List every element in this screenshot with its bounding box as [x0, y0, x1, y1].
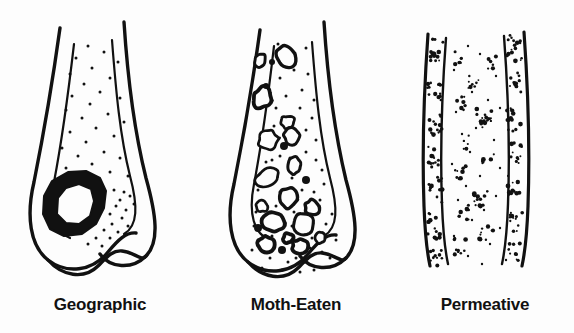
stipple-dot [313, 269, 316, 272]
stipple-dot [107, 113, 110, 116]
permeative-speck [510, 107, 512, 109]
permeative-speck [428, 127, 432, 131]
permeative-speck [507, 128, 510, 131]
permeative-speck [479, 175, 481, 177]
permeative-speck [458, 61, 461, 64]
permeative-speck [457, 214, 461, 218]
permeative-speck [468, 81, 470, 83]
permeative-speck [520, 211, 524, 215]
permeative-speck [510, 37, 512, 39]
permeative-speck [437, 131, 439, 133]
stipple-dot [279, 155, 282, 158]
stipple-dot [65, 109, 68, 112]
permeative-speck [434, 59, 437, 62]
permeative-speck [509, 76, 512, 79]
moth-eaten-solid-focus [269, 59, 275, 65]
permeative-speck [457, 249, 460, 252]
permeative-speck [484, 116, 488, 120]
permeative-speck [520, 146, 523, 149]
permeative-speck [489, 109, 493, 113]
stipple-dot [89, 103, 92, 106]
permeative-speck [463, 140, 465, 142]
permeative-speck [453, 235, 455, 237]
permeative-speck [518, 242, 522, 246]
permeative-speck [440, 99, 442, 101]
stipple-dot [307, 73, 310, 76]
permeative-speck [438, 60, 440, 62]
permeative-speck [518, 39, 521, 42]
stipple-dot [117, 231, 120, 234]
stipple-dot [95, 127, 98, 130]
permeative-speck [454, 50, 457, 53]
moth-eaten-lytic-lesion [278, 186, 300, 210]
permeative-speck [471, 91, 473, 93]
permeative-speck [481, 227, 483, 229]
bone-destruction-patterns-figure: Geographic Moth-Eaten [0, 0, 574, 333]
permeative-speck [428, 212, 431, 215]
permeative-speck [433, 256, 435, 258]
permeative-speck [493, 153, 495, 155]
permeative-speck [467, 143, 469, 145]
permeative-speck [439, 115, 442, 118]
permeative-speck [485, 238, 487, 240]
permeative-speck [437, 159, 440, 162]
permeative-speck [426, 82, 430, 86]
permeative-speck [511, 111, 516, 116]
permeative-speck [479, 122, 483, 126]
stipple-dot [261, 267, 264, 270]
permeative-speck [505, 259, 507, 261]
permeative-speck [461, 133, 463, 135]
permeative-speck [438, 123, 442, 127]
geographic-lesion [43, 171, 106, 236]
permeative-speck [434, 216, 438, 220]
stipple-dot [299, 107, 302, 110]
permeative-speck [436, 176, 439, 179]
stipple-dot [117, 61, 120, 64]
cortex-inner-left [441, 38, 448, 264]
stipple-dot [109, 77, 112, 80]
stipple-dot [321, 251, 324, 254]
permeative-speck [459, 252, 462, 255]
moth-eaten-solid-focus [280, 142, 288, 150]
permeative-speck [427, 160, 431, 164]
permeative-speck [458, 210, 462, 214]
permeative-speck [430, 165, 433, 168]
permeative-speck [451, 163, 453, 165]
permeative-speck [475, 204, 477, 206]
permeative-speck [457, 199, 459, 201]
permeative-speck [436, 128, 439, 131]
stipple-dot [257, 189, 260, 192]
permeative-speck [440, 127, 443, 130]
permeative-speck [509, 220, 511, 222]
permeative-speck [518, 79, 521, 82]
permeative-speck [460, 57, 463, 60]
permeative-speck [440, 249, 443, 252]
permeative-speck [512, 229, 515, 232]
permeative-speck [519, 91, 522, 94]
caption-moth-eaten: Moth-Eaten [196, 295, 396, 315]
permeative-speck [439, 92, 441, 94]
permeative-speck [465, 147, 469, 151]
stipple-dot [109, 237, 112, 240]
stipple-dot [277, 43, 280, 46]
geographic-bone-outline [30, 22, 155, 275]
permeative-speck [429, 50, 433, 54]
stipple-dot [95, 237, 98, 240]
permeative-speck [512, 243, 515, 246]
stipple-dot [69, 131, 72, 134]
stipple-dot [271, 159, 274, 162]
permeative-speck [490, 117, 492, 119]
permeative-speck [487, 99, 489, 101]
stipple-dot [325, 223, 328, 226]
permeative-speck [514, 84, 518, 88]
moth-eaten-bone-drawing [196, 0, 396, 300]
permeative-speck [428, 93, 431, 96]
moth-eaten-lytic-lesion [274, 43, 299, 71]
moth-eaten-lytic-lesion [255, 234, 276, 254]
stipple-dot [269, 257, 272, 260]
stipple-dot [331, 213, 334, 216]
permeative-speck [510, 118, 514, 122]
permeative-speck [432, 249, 435, 252]
stipple-dot [65, 167, 68, 170]
geographic-lytic-lesion [43, 171, 106, 236]
